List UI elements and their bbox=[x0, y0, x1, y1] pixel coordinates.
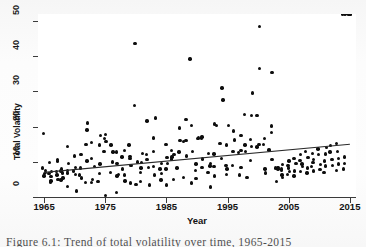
figure-caption: Figure 6.1: Trend of total volatility ov… bbox=[6, 236, 356, 247]
trend-line bbox=[38, 14, 356, 197]
x-tick-label: 2015 bbox=[330, 201, 366, 213]
x-tick-label: 1985 bbox=[146, 201, 186, 213]
y-tick-label-text: 10 bbox=[11, 146, 21, 178]
x-tick-label: 2005 bbox=[269, 201, 309, 213]
y-tick-label: 30 bbox=[0, 86, 32, 96]
x-axis-line bbox=[38, 197, 356, 198]
y-tick-label-text: 20 bbox=[11, 111, 21, 143]
figure-caption-text: Figure 6.1: Trend of total volatility ov… bbox=[6, 236, 356, 247]
y-tick-label-text: 40 bbox=[11, 40, 21, 72]
y-tick-label-text: 50 bbox=[11, 5, 21, 37]
y-tick-label-text: 30 bbox=[11, 75, 21, 107]
x-tick-label: 1975 bbox=[85, 201, 125, 213]
y-tick-label: 50 bbox=[0, 16, 32, 26]
x-tick-label: 1995 bbox=[208, 201, 248, 213]
y-tick-label: 40 bbox=[0, 51, 32, 61]
y-tick-label-text: 0 bbox=[11, 181, 21, 213]
x-axis-title: Year bbox=[38, 215, 356, 226]
y-tick-label: 10 bbox=[0, 157, 32, 167]
x-tick-label: 1965 bbox=[24, 201, 64, 213]
y-tick-label: 20 bbox=[0, 122, 32, 132]
figure-container: Total Volatility Year 01020304050 196519… bbox=[0, 0, 366, 247]
plot-area bbox=[38, 14, 356, 197]
y-tick-mark bbox=[33, 197, 38, 198]
